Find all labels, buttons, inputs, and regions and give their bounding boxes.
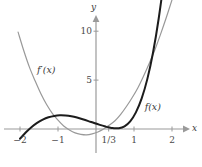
y-axis-label: y [91, 3, 96, 12]
x-axis-arrow-icon [183, 126, 190, 133]
x-tick-label: 1 [120, 136, 148, 145]
curve-label-f-prime: f′(x) [37, 65, 55, 75]
y-tick-label: 10 [74, 27, 92, 36]
x-tick-label: 2 [158, 136, 186, 145]
x-tick-label: −1 [44, 136, 72, 145]
curve-label-f: f(x) [145, 102, 161, 112]
graph-figure: y x −2−11/312510f′(x)f(x) [0, 0, 202, 167]
x-tick-label: 1/3 [95, 136, 123, 145]
x-tick-label: −2 [6, 136, 34, 145]
y-axis-arrow-icon [93, 15, 100, 22]
y-tick-label: 5 [74, 76, 92, 85]
x-axis-label: x [192, 124, 197, 133]
